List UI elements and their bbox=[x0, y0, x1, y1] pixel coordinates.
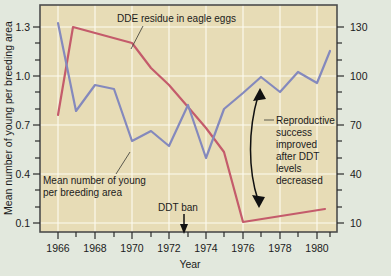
chart-svg: 1.3 1.0 0.7 0.4 0.1 Mean number of young… bbox=[0, 0, 391, 276]
y-left-tick-1: 1.0 bbox=[15, 70, 30, 82]
x-tick-6: 1978 bbox=[268, 242, 292, 254]
y-right-tick-1: 100 bbox=[350, 70, 368, 82]
y-right-tick-0: 130 bbox=[350, 21, 368, 33]
y-right-tick-4: 10 bbox=[350, 217, 362, 229]
annotation-ddt-ban-label: DDT ban bbox=[158, 202, 198, 213]
annotation-repro-line3: improved bbox=[276, 139, 317, 150]
y-left-tick-3: 0.4 bbox=[15, 168, 30, 180]
annotation-repro-line1: Reproductive bbox=[276, 115, 335, 126]
annotation-dde-label: DDE residue in eagle eggs bbox=[117, 13, 236, 24]
x-axis-title: Year bbox=[179, 258, 201, 270]
x-tick-5: 1976 bbox=[231, 242, 255, 254]
chart-figure: 1.3 1.0 0.7 0.4 0.1 Mean number of young… bbox=[0, 0, 391, 276]
annotation-repro-line6: decreased bbox=[276, 175, 323, 186]
annotation-repro-line4: after DDT bbox=[276, 151, 319, 162]
y-left-tick-4: 0.1 bbox=[15, 217, 30, 229]
x-tick-7: 1980 bbox=[305, 242, 329, 254]
x-tick-1: 1968 bbox=[83, 242, 107, 254]
annotation-repro-line5: levels bbox=[276, 163, 302, 174]
x-tick-3: 1972 bbox=[157, 242, 181, 254]
y-left-tick-2: 0.7 bbox=[15, 119, 30, 131]
y-right-tick-3: 40 bbox=[350, 168, 362, 180]
annotation-young-label-line2: per breeding area bbox=[43, 187, 122, 198]
x-tick-4: 1974 bbox=[194, 242, 218, 254]
y-right-tick-2: 70 bbox=[350, 119, 362, 131]
annotation-repro-line2: success bbox=[276, 127, 312, 138]
x-tick-2: 1970 bbox=[120, 242, 144, 254]
annotation-young-label-line1: Mean number of young bbox=[43, 175, 146, 186]
y-axis-title: Mean number of young per breeding area bbox=[2, 21, 14, 215]
x-tick-0: 1966 bbox=[46, 242, 70, 254]
y-left-tick-0: 1.3 bbox=[15, 21, 30, 33]
